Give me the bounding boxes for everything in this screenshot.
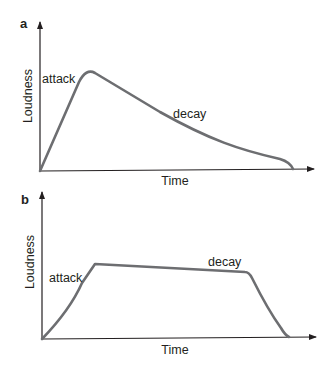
x-axis-label-a: Time: [161, 174, 188, 188]
attack-label-b: attack: [49, 271, 83, 285]
x-axis-b: [42, 337, 316, 339]
envelope-diagram: a Loudness Time attack decay b Loudness …: [0, 0, 335, 371]
y-axis-label-b: Loudness: [23, 235, 37, 289]
decay-label-a: decay: [173, 107, 207, 121]
panel-a: a Loudness Time attack decay: [20, 16, 314, 188]
envelope-curve-a: [40, 72, 293, 171]
decay-label-b: decay: [208, 255, 242, 269]
attack-label-a: attack: [42, 72, 76, 86]
x-axis-label-b: Time: [161, 343, 188, 357]
y-axis-label-a: Loudness: [21, 69, 35, 123]
panel-b: b Loudness Time attack decay: [21, 192, 316, 357]
x-axis-a: [40, 169, 314, 171]
panel-a-label: a: [20, 16, 28, 31]
panel-b-label: b: [21, 192, 29, 207]
